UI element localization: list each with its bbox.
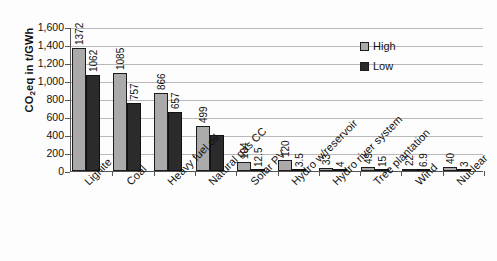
legend-label-high: High [373, 40, 396, 52]
bar-high[interactable] [443, 167, 457, 171]
x-axis-tick-mark [443, 171, 444, 176]
bar-value-label: 657 [170, 92, 181, 109]
legend-item-low[interactable]: Low [360, 56, 422, 76]
bar-high[interactable] [154, 93, 168, 171]
y-axis-tick-label: 1,000 [16, 75, 64, 87]
bar-value-label: 499 [198, 106, 209, 123]
x-axis-tick-mark [319, 171, 320, 176]
legend-item-high[interactable]: High [360, 36, 422, 56]
legend-swatch-low-icon [360, 62, 369, 71]
y-axis-tick-label: 1,600 [16, 21, 64, 33]
x-axis-tick-mark [484, 171, 485, 176]
x-axis-tick-mark [195, 171, 196, 176]
bar-value-label: 1062 [88, 50, 99, 72]
bar-group: 13721062 [71, 28, 112, 171]
y-axis-tick-label: 600 [16, 111, 64, 123]
bar-group: 866657 [154, 28, 195, 171]
x-axis-tick-mark [401, 171, 402, 176]
chart-legend: High Low [360, 36, 422, 76]
bar-high[interactable] [72, 48, 86, 171]
bar-low[interactable] [86, 75, 100, 171]
bar-high[interactable] [319, 168, 333, 171]
y-axis-tick-label: 1,400 [16, 39, 64, 51]
y-axis-tick-label: 0 [16, 165, 64, 177]
bar-value-label: 866 [156, 73, 167, 90]
y-axis-tick-label: 200 [16, 147, 64, 159]
bar-low[interactable] [127, 103, 141, 171]
bar-group: 403 [443, 28, 484, 171]
bar-value-label: 1085 [115, 48, 126, 70]
bar-value-label: 40 [445, 153, 456, 164]
y-axis-tick-mark [65, 172, 70, 173]
x-axis-tick-mark [236, 171, 237, 176]
bar-high[interactable] [402, 169, 416, 171]
bar-high[interactable] [361, 167, 375, 171]
x-axis-tick-mark [154, 171, 155, 176]
bar-high[interactable] [113, 73, 127, 171]
x-axis-tick-mark [278, 171, 279, 176]
emissions-bar-chart: CO2eq in t/GWh 1,6001,4001,2001,00080060… [0, 0, 497, 261]
x-axis-tick-mark [112, 171, 113, 176]
legend-swatch-high-icon [360, 42, 369, 51]
y-axis-tick-label: 400 [16, 129, 64, 141]
bar-value-label: 1372 [74, 22, 85, 44]
bar-group: 1085757 [112, 28, 153, 171]
bar-group: 1203.5 [278, 28, 319, 171]
x-axis-tick-mark [360, 171, 361, 176]
legend-label-low: Low [373, 60, 393, 72]
y-axis-tick-label: 1,200 [16, 57, 64, 69]
bar-value-label: 757 [129, 83, 140, 100]
y-axis-tick-label: 800 [16, 93, 64, 105]
